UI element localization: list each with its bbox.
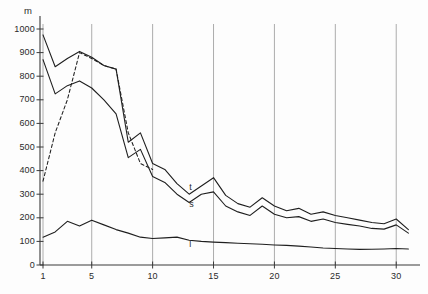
y-tick-label-600: 600: [0, 119, 35, 128]
y-tick-label-300: 300: [0, 190, 35, 199]
axis-ticks-group: [37, 29, 397, 269]
series-annotation-t: t: [189, 183, 192, 192]
y-tick-label-700: 700: [0, 95, 35, 104]
x-tick-label-30: 30: [384, 272, 408, 281]
y-axis-unit-label: m: [24, 6, 32, 16]
axes-group: [40, 16, 420, 265]
y-tick-label-800: 800: [0, 72, 35, 81]
x-tick-label-10: 10: [141, 272, 165, 281]
chart-canvas: [0, 0, 428, 294]
x-tick-label-25: 25: [323, 272, 347, 281]
series-annotation-s: s: [189, 200, 194, 209]
series-line-s: [43, 60, 408, 233]
series-line-t: [43, 35, 408, 230]
y-tick-label-200: 200: [0, 213, 35, 222]
y-tick-label-1000: 1000: [0, 25, 35, 34]
series-line-l: [43, 220, 408, 249]
y-tick-label-900: 900: [0, 48, 35, 57]
y-tick-label-100: 100: [0, 237, 35, 246]
chart-figure: m 01002003004005006007008009001000 15101…: [0, 0, 428, 294]
y-tick-label-500: 500: [0, 143, 35, 152]
series-group: [43, 35, 408, 250]
series-annotation-l: l: [189, 240, 191, 249]
x-tick-label-1: 1: [31, 272, 55, 281]
y-tick-label-400: 400: [0, 166, 35, 175]
x-tick-label-20: 20: [262, 272, 286, 281]
y-tick-label-0: 0: [0, 261, 35, 270]
x-tick-label-5: 5: [80, 272, 104, 281]
series-line-dashed: [43, 53, 153, 182]
x-tick-label-15: 15: [202, 272, 226, 281]
